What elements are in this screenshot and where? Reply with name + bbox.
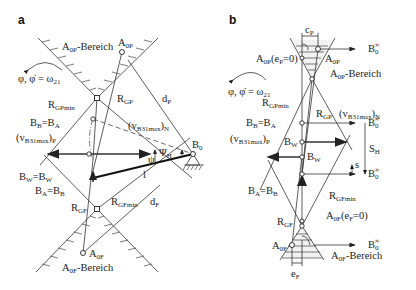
bb-ba-label: BB=BA <box>30 117 60 130</box>
dp-label: dP <box>162 93 171 106</box>
b-a0p-region-label: A0P-Bereich <box>330 68 382 81</box>
rgp-line <box>92 52 122 175</box>
phi-label: φ, φ̇ = ω21 <box>18 73 61 86</box>
ef-label: eF <box>291 268 300 281</box>
b-rgf-label: RGF <box>277 216 293 229</box>
a0p-ep0-label: A0P(eP=0) <box>256 53 298 66</box>
rgf-label: RGF <box>71 202 87 215</box>
a0f-label: A0F <box>89 248 104 261</box>
b-a0p-ep0-point <box>300 56 304 60</box>
df-line <box>83 185 160 253</box>
df-label: dF <box>150 196 159 209</box>
b0inf-label-3: B0∞ <box>368 166 380 181</box>
b-a0p-joint <box>316 47 321 52</box>
a0p-label: A0P <box>118 37 133 50</box>
rgpmin-label: RGPmin <box>48 99 75 112</box>
b-a0f-ef0-label: A0F(eF=0) <box>326 210 368 223</box>
vp-label: (vB31max)P <box>16 132 56 145</box>
psi-label: ψ <box>148 154 155 165</box>
a0f-joint <box>81 251 86 256</box>
l-label: l <box>143 169 146 180</box>
b-a0f-ef0-point <box>300 224 304 228</box>
rgpmin-point <box>95 96 100 101</box>
b-vp-label: (vB31max)P <box>230 133 270 146</box>
b-rgfmin-label: RGFmin <box>329 190 356 203</box>
b-ba-bb-label: BA=BB <box>248 185 278 198</box>
rgfmin-label: RGFmin <box>111 196 138 209</box>
panel-a: a <box>16 13 204 275</box>
b0-label: B0 <box>192 139 203 152</box>
a0p-joint <box>120 50 125 55</box>
b-ba-point <box>300 172 304 176</box>
panel-b-label: b <box>229 13 236 27</box>
cp-label: cP <box>305 24 314 37</box>
a0f-region-label: A0F-Bereich <box>62 262 114 275</box>
dp-line <box>128 60 193 154</box>
b-rgpmin-point <box>310 77 314 81</box>
rgfmin-point <box>95 207 100 212</box>
ba-bb-label: BA=BB <box>35 185 65 198</box>
b-bb-point <box>300 121 304 125</box>
b-a0f-label: A0F <box>272 240 287 253</box>
psi-h-label: ΨH <box>159 147 172 160</box>
sh-label: SH <box>369 143 380 156</box>
s-label: s <box>355 159 359 170</box>
vn-label: (vB31max)N <box>128 120 169 133</box>
rgp-label: RGP <box>117 93 133 106</box>
bw-label: BW=BW <box>19 171 53 184</box>
rotation-arrow-icon-b <box>233 73 266 81</box>
b-a0p-label: A0P <box>325 53 340 66</box>
rgpmin-line <box>93 98 97 160</box>
ba-point <box>91 176 95 180</box>
rotation-arrow-icon <box>28 63 62 71</box>
b-rgfmin-point <box>300 219 304 223</box>
b-a0f-joint <box>290 243 295 248</box>
b-a0f-region-label: A0F-Bereich <box>331 250 383 263</box>
a0p-region-label: A0P-Bereich <box>62 41 114 54</box>
b-bw-label: BW <box>307 151 321 164</box>
bw-point <box>87 152 91 156</box>
b-rgpmin-label: RGPmin <box>262 97 289 110</box>
b-bb-label: BB=BA <box>246 117 276 130</box>
bb-point <box>91 117 95 121</box>
panel-b: b cP <box>228 13 383 281</box>
mechanism-diagram: a <box>0 0 416 290</box>
b-bwbar-point <box>300 140 304 144</box>
panel-a-label: a <box>18 13 25 27</box>
b-bwbar-label: BW <box>284 136 298 149</box>
b-bw-point <box>300 155 304 159</box>
b0inf-label-1: B0∞ <box>368 41 380 56</box>
b0-pivot <box>183 152 204 171</box>
